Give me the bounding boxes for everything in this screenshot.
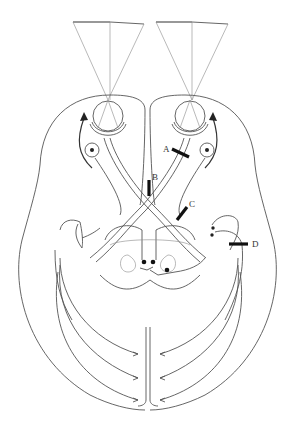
visual-pathway-diagram: A B C D: [0, 0, 295, 426]
lesion-b-label: B: [152, 172, 158, 182]
right-visual-field-cone: [156, 22, 228, 100]
lesion-c: C: [177, 199, 195, 220]
left-eye: [90, 100, 126, 135]
right-nucleus: [200, 143, 214, 157]
lesion-c-label: C: [189, 199, 195, 209]
left-visual-field-cone: [73, 22, 144, 100]
brain-outline: [19, 95, 277, 410]
lesion-d-label: D: [252, 239, 259, 249]
right-eye: [172, 100, 208, 135]
left-nucleus: [85, 143, 99, 157]
lesion-d: D: [229, 239, 259, 249]
left-eye-movement-arrow: [79, 112, 92, 168]
left-lateral-structure: [55, 220, 100, 320]
lesion-a-label: A: [163, 144, 170, 154]
right-eye-movement-arrow: [205, 112, 217, 168]
midbrain: [100, 226, 205, 289]
